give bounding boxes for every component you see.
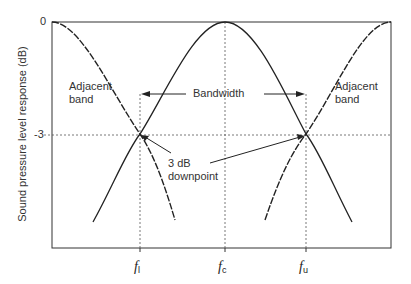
y-tick-minus3: -3 — [34, 128, 44, 140]
adjacent-left-line1: Adjacent — [69, 80, 112, 93]
adjacent-right-line2: band — [335, 93, 378, 106]
adjacent-left-line2: band — [69, 93, 112, 106]
bandwidth-arrow-left-head — [141, 91, 150, 97]
downpoint-line2: downpoint — [168, 170, 218, 183]
fc-sub: c — [222, 265, 227, 275]
downpoint-label: 3 dB downpoint — [168, 157, 218, 183]
bandwidth-arrow-right-head — [296, 91, 305, 97]
downpoint-line1: 3 dB — [168, 157, 218, 170]
x-label-fc: fc — [218, 259, 226, 275]
y-tick-0: 0 — [40, 15, 46, 27]
bandwidth-diagram — [0, 0, 411, 284]
upper-adjacent-curve — [265, 22, 391, 220]
y-axis-label: Sound pressure level response (dB) — [16, 34, 28, 234]
adjacent-band-left-label: Adjacent band — [69, 80, 112, 106]
adjacent-right-line1: Adjacent — [335, 80, 378, 93]
fl-sub: l — [138, 265, 140, 275]
lower-adjacent-curve — [52, 22, 175, 220]
x-label-fl: fl — [134, 259, 140, 275]
fu-sub: u — [303, 265, 308, 275]
adjacent-band-right-label: Adjacent band — [335, 80, 378, 106]
bandwidth-label: Bandwidth — [193, 87, 244, 100]
x-label-fu: fu — [299, 259, 308, 275]
downpoint-pointer-right — [210, 137, 300, 163]
